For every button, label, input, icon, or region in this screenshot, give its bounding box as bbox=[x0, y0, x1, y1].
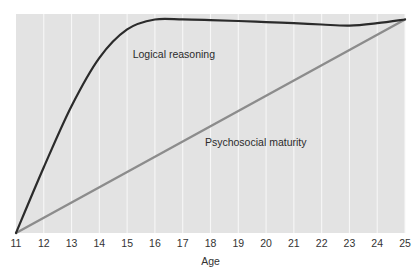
x-axis-title: Age bbox=[201, 255, 220, 267]
x-tick-label-11: 11 bbox=[11, 237, 22, 249]
x-tick-label-20: 20 bbox=[260, 237, 272, 249]
x-tick-label-16: 16 bbox=[149, 237, 161, 249]
x-tick-label-25: 25 bbox=[399, 237, 411, 249]
x-tick-label-18: 18 bbox=[205, 237, 217, 249]
x-axis-tick-labels: 111213141516171819202122232425 bbox=[11, 237, 411, 249]
x-tick-label-24: 24 bbox=[371, 237, 383, 249]
line-chart: 111213141516171819202122232425 Logical r… bbox=[0, 0, 420, 278]
series-label-psychosocial-maturity: Psychosocial maturity bbox=[205, 136, 307, 148]
x-tick-label-23: 23 bbox=[344, 237, 356, 249]
chart-figure: 111213141516171819202122232425 Logical r… bbox=[0, 0, 420, 278]
x-tick-label-17: 17 bbox=[177, 237, 189, 249]
x-tick-label-15: 15 bbox=[121, 237, 133, 249]
x-tick-label-14: 14 bbox=[94, 237, 106, 249]
x-tick-label-22: 22 bbox=[316, 237, 328, 249]
x-tick-label-13: 13 bbox=[66, 237, 78, 249]
x-tick-label-12: 12 bbox=[38, 237, 50, 249]
x-tick-label-21: 21 bbox=[288, 237, 300, 249]
x-tick-label-19: 19 bbox=[232, 237, 244, 249]
series-label-logical-reasoning: Logical reasoning bbox=[133, 48, 215, 60]
